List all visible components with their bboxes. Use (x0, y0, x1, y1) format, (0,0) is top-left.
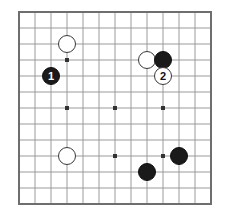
star-point (161, 154, 165, 158)
star-point (113, 106, 117, 110)
star-point (161, 106, 165, 110)
go-stone-white-move-2[interactable]: 2 (154, 67, 172, 85)
star-point (113, 154, 117, 158)
go-stone-black-move-1[interactable]: 1 (42, 67, 60, 85)
go-stone-black[interactable] (170, 147, 188, 165)
stone-move-number: 1 (48, 70, 54, 81)
go-stone-white[interactable] (58, 147, 76, 165)
go-stone-white[interactable] (58, 35, 76, 53)
go-board-grid (0, 0, 226, 221)
go-stone-black[interactable] (138, 163, 156, 181)
star-point (65, 58, 69, 62)
stone-move-number: 2 (160, 70, 166, 81)
go-board-diagram: 12 (0, 0, 226, 221)
star-point (65, 106, 69, 110)
